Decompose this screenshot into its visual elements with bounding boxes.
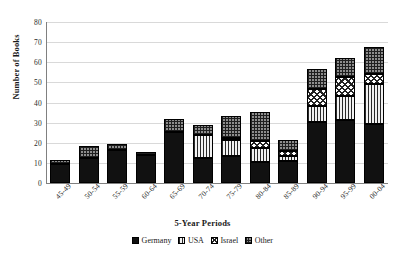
y-axis-tick-label: 30 <box>2 118 42 127</box>
stacked-bar-chart: 01020304050607080 Number of Books 45-495… <box>0 0 405 255</box>
bar-segment-israel[interactable] <box>307 89 327 105</box>
x-tick-slot: 80-84 <box>246 186 275 220</box>
legend-item-germany[interactable]: Germany <box>132 236 171 245</box>
legend-label: Germany <box>142 236 172 245</box>
y-axis-tick-label: 50 <box>2 78 42 87</box>
bar-segment-germany[interactable] <box>307 122 327 183</box>
stacked-bar[interactable] <box>221 116 241 183</box>
bar-segment-germany[interactable] <box>221 156 241 183</box>
stacked-bar[interactable] <box>250 112 270 183</box>
stacked-bar[interactable] <box>107 144 127 183</box>
y-axis-tick-label: 70 <box>2 38 42 47</box>
bar-slot <box>132 22 161 183</box>
y-axis-tick-label: 0 <box>2 179 42 188</box>
legend-label: Israel <box>220 236 238 245</box>
x-axis-tick-label: 65-69 <box>168 181 187 200</box>
bar-segment-other[interactable] <box>307 69 327 89</box>
stacked-bar[interactable] <box>364 47 384 183</box>
x-tick-slot: 95-99 <box>331 186 360 220</box>
bar-segment-other[interactable] <box>335 58 355 77</box>
x-axis-tick-label: 95-99 <box>339 181 358 200</box>
stacked-bar[interactable] <box>335 58 355 183</box>
bar-slot <box>331 22 360 183</box>
legend-swatch-icon <box>132 237 139 244</box>
bar-segment-other[interactable] <box>221 116 241 138</box>
bar-segment-usa[interactable] <box>307 106 327 122</box>
stacked-bar[interactable] <box>79 146 99 183</box>
bar-segment-israel[interactable] <box>364 74 384 84</box>
stacked-bar[interactable] <box>278 140 298 183</box>
bar-segment-germany[interactable] <box>107 150 127 183</box>
bar-segment-israel[interactable] <box>335 77 355 96</box>
bar-slot <box>160 22 189 183</box>
bar-slot <box>103 22 132 183</box>
y-axis-tick-label: 60 <box>2 58 42 67</box>
bar-slot <box>46 22 75 183</box>
x-axis-tick-label: 00-04 <box>367 181 386 200</box>
x-tick-slot: 55-59 <box>103 186 132 220</box>
x-tick-slot: 75-79 <box>217 186 246 220</box>
stacked-bar[interactable] <box>164 119 184 183</box>
y-axis-tick-labels: 01020304050607080 <box>0 0 42 255</box>
bar-segment-other[interactable] <box>193 125 213 135</box>
y-axis-tick-label: 80 <box>2 18 42 27</box>
bar-segment-other[interactable] <box>164 119 184 132</box>
bar-slot <box>189 22 218 183</box>
bar-slot <box>303 22 332 183</box>
y-axis-title: Number of Books <box>11 7 21 127</box>
bar-segment-usa[interactable] <box>335 96 355 119</box>
x-tick-slot: 50-54 <box>75 186 104 220</box>
bar-segment-germany[interactable] <box>79 158 99 183</box>
x-axis-tick-label: 70-74 <box>196 181 215 200</box>
bar-segment-usa[interactable] <box>193 135 213 158</box>
x-tick-slot: 85-89 <box>274 186 303 220</box>
legend-swatch-icon <box>245 237 252 244</box>
stacked-bar[interactable] <box>307 69 327 183</box>
bar-segment-germany[interactable] <box>193 158 213 183</box>
bar-segment-other[interactable] <box>250 112 270 141</box>
x-tick-slot: 00-04 <box>360 186 389 220</box>
bar-segment-other[interactable] <box>364 47 384 74</box>
bar-segment-germany[interactable] <box>364 124 384 183</box>
legend-swatch-icon <box>211 237 218 244</box>
bar-slot <box>75 22 104 183</box>
bar-series-area <box>46 22 388 183</box>
x-tick-slot: 45-49 <box>46 186 75 220</box>
bar-segment-usa[interactable] <box>364 84 384 123</box>
x-axis-tick-label: 55-59 <box>111 181 130 200</box>
legend-label: USA <box>188 236 204 245</box>
bar-segment-other[interactable] <box>278 140 298 151</box>
y-axis-tick-label: 40 <box>2 98 42 107</box>
bar-segment-germany[interactable] <box>250 162 270 183</box>
stacked-bar[interactable] <box>50 160 70 183</box>
x-axis-tick-labels: 45-4950-5455-5960-6465-6970-7475-7980-84… <box>46 186 388 220</box>
legend-label: Other <box>255 236 273 245</box>
y-axis-tick-label: 10 <box>2 158 42 167</box>
x-tick-slot: 90-94 <box>303 186 332 220</box>
chart-legend: GermanyUSAIsraelOther <box>0 236 405 245</box>
bar-segment-israel[interactable] <box>250 141 270 148</box>
y-axis-tick-label: 20 <box>2 138 42 147</box>
bar-segment-germany[interactable] <box>136 155 156 183</box>
bar-segment-usa[interactable] <box>221 140 241 156</box>
bar-slot <box>274 22 303 183</box>
stacked-bar[interactable] <box>136 152 156 183</box>
x-tick-slot: 70-74 <box>189 186 218 220</box>
x-axis-tick-label: 75-79 <box>225 181 244 200</box>
bar-segment-germany[interactable] <box>50 164 70 183</box>
legend-item-other[interactable]: Other <box>245 236 273 245</box>
legend-item-usa[interactable]: USA <box>178 236 204 245</box>
x-axis-title: 5-Year Periods <box>0 218 405 228</box>
x-tick-slot: 60-64 <box>132 186 161 220</box>
bar-segment-germany[interactable] <box>164 132 184 183</box>
legend-swatch-icon <box>178 237 185 244</box>
legend-item-israel[interactable]: Israel <box>211 236 238 245</box>
stacked-bar[interactable] <box>193 125 213 183</box>
bar-segment-usa[interactable] <box>250 148 270 162</box>
bar-segment-germany[interactable] <box>335 120 355 183</box>
x-axis-tick-label: 80-84 <box>253 181 272 200</box>
x-axis-tick-label: 50-54 <box>82 181 101 200</box>
bar-segment-other[interactable] <box>79 146 99 158</box>
bar-slot <box>217 22 246 183</box>
bar-segment-germany[interactable] <box>278 161 298 183</box>
